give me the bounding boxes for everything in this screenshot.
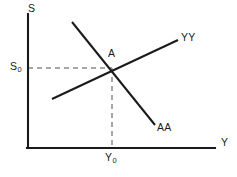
y0-tick-label: Y0 (105, 152, 117, 163)
diagram-canvas (0, 0, 237, 177)
s0-subscript: 0 (18, 65, 22, 74)
y0-subscript: 0 (113, 156, 117, 165)
yy-curve-label: YY (181, 32, 195, 43)
economics-diagram-figure: S Y S0 Y0 A YY AA (0, 0, 237, 177)
y0-base: Y (105, 151, 112, 163)
aa-curve (72, 22, 155, 125)
s0-base: S (10, 60, 17, 72)
equilibrium-point-label: A (108, 48, 115, 59)
saving-axis-label: S (28, 3, 35, 14)
s0-tick-label: S0 (10, 61, 22, 72)
aa-curve-label: AA (157, 122, 171, 133)
income-axis-label: Y (221, 137, 228, 148)
